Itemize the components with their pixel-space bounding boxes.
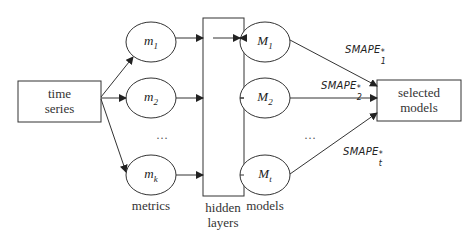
model-1-sub: 1 — [268, 41, 273, 51]
metric-k-base: m — [144, 166, 153, 181]
model-t-sub: t — [269, 174, 272, 184]
metric-2-sub: 2 — [153, 97, 158, 107]
selected-line2: models — [377, 100, 461, 115]
metric-label-2: m2 — [131, 89, 171, 107]
smape-2-base: SMAPE — [321, 80, 357, 91]
smape-t-base: SMAPE — [343, 146, 379, 157]
smape-1-sub: 1 — [381, 57, 386, 66]
models-caption: models — [240, 198, 290, 213]
smape-1-base: SMAPE — [345, 44, 381, 55]
model-label-1: M1 — [245, 33, 285, 51]
edge-label-2: SMAPE*2 — [321, 80, 363, 91]
model-label-t: Mt — [245, 166, 285, 184]
model-2-sub: 2 — [268, 97, 273, 107]
selected-models-label: selected models — [377, 85, 461, 115]
metric-k-sub: k — [154, 174, 158, 184]
time-series-label: time series — [18, 86, 101, 116]
metrics-ellipsis: … — [156, 128, 168, 143]
metric-1-sub: 1 — [153, 41, 158, 51]
time-series-line2: series — [18, 101, 101, 116]
metrics-caption: metrics — [126, 198, 176, 213]
smape-t-sup: * — [379, 150, 383, 159]
edge-label-t: SMAPE*t — [343, 146, 385, 157]
metric-label-k: mk — [131, 166, 171, 184]
hidden-line2: layers — [193, 215, 253, 230]
model-2-base: M — [257, 89, 268, 104]
model-t-base: M — [258, 166, 269, 181]
time-series-line1: time — [18, 86, 101, 101]
models-ellipsis: … — [304, 128, 316, 143]
smape-2-sup: * — [357, 84, 361, 93]
smape-t-sub: t — [379, 159, 382, 168]
model-1-base: M — [257, 33, 268, 48]
smape-1-sup: * — [381, 48, 385, 57]
selected-line1: selected — [377, 85, 461, 100]
model-label-2: M2 — [245, 89, 285, 107]
smape-2-sub: 2 — [357, 93, 362, 102]
metric-label-1: m1 — [131, 33, 171, 51]
edge-label-1: SMAPE*1 — [345, 44, 387, 55]
